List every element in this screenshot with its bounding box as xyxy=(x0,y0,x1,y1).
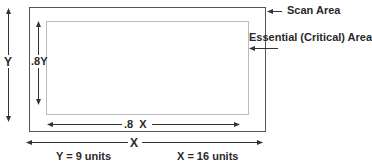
inner-y-dimension-label: .8Y xyxy=(31,56,48,67)
scan-area-label: Scan Area xyxy=(287,5,340,16)
x-value-label: X = 16 units xyxy=(177,151,238,162)
y-value-label: Y = 9 units xyxy=(56,151,111,162)
scan-area-rect xyxy=(30,8,266,132)
x-dimension-label: X xyxy=(130,137,138,149)
essential-area-rect xyxy=(47,22,249,115)
essential-area-label: Essential (Critical) Area xyxy=(249,32,372,43)
inner-x-dimension-label: .8 X xyxy=(124,119,147,130)
y-dimension-label: Y xyxy=(4,56,12,68)
